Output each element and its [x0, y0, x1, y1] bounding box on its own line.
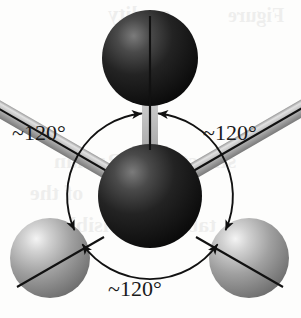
molecular-diagram-figure: qualityFigureRamanstructureof themolecul… [0, 0, 301, 318]
angle-label-left: ~120° [12, 122, 66, 144]
atom-bottom-left [10, 218, 90, 298]
atom-center [98, 144, 202, 248]
angle-arc-bottom [83, 245, 217, 279]
molecule-illustration [0, 0, 301, 318]
angle-label-bottom: ~120° [108, 278, 162, 300]
atom-bottom-right [209, 218, 289, 298]
angle-label-right: ~120° [203, 122, 257, 144]
